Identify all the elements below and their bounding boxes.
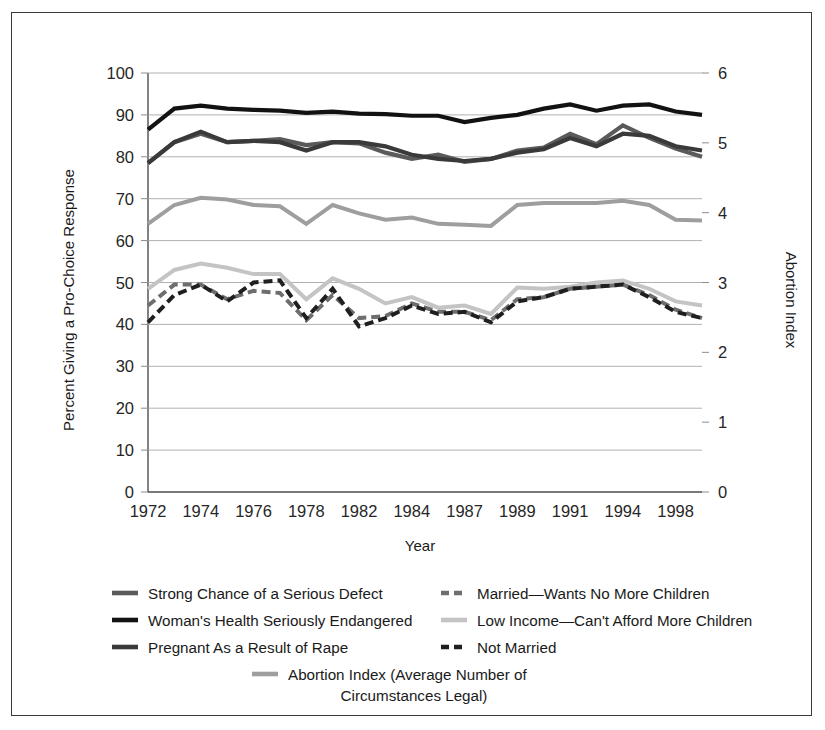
y-tick-label-left: 20 (116, 399, 134, 417)
series-line (148, 132, 702, 163)
legend-label: Woman's Health Seriously Endangered (148, 612, 412, 629)
legend-label: Abortion Index (Average Number of (288, 666, 527, 683)
legend: Strong Chance of a Serious DefectWoman's… (112, 585, 752, 705)
legend-item-abortion-index: Abortion Index (Average Number ofCircums… (252, 666, 527, 705)
y-tick-label-left: 80 (116, 148, 134, 166)
legend-label: Pregnant As a Result of Rape (148, 639, 348, 656)
y-tick-label-left: 100 (106, 64, 134, 82)
legend-item: Strong Chance of a Serious Defect (112, 585, 383, 602)
legend-item: Woman's Health Seriously Endangered (112, 612, 412, 629)
y-tick-label-left: 40 (116, 315, 134, 333)
x-axis-title: Year (405, 537, 435, 554)
legend-item: Married—Wants No More Children (441, 585, 709, 602)
y-tick-label-right: 2 (718, 343, 727, 361)
y-tick-label-left: 30 (116, 357, 134, 375)
y-tick-label-left: 0 (125, 483, 134, 501)
y-tick-label-left: 10 (116, 441, 134, 459)
x-tick-label: 1976 (235, 502, 272, 520)
y-axis-left: 0102030405060708090100 (106, 64, 148, 501)
y-tick-label-right: 4 (718, 204, 727, 222)
legend-label: Strong Chance of a Serious Defect (148, 585, 383, 602)
y-tick-label-right: 0 (718, 483, 727, 501)
x-tick-label: 1984 (393, 502, 430, 520)
x-tick-label: 1972 (130, 502, 167, 520)
y-tick-label-left: 70 (116, 190, 134, 208)
legend-item: Pregnant As a Result of Rape (112, 639, 348, 656)
y-tick-label-left: 90 (116, 106, 134, 124)
y-tick-label-right: 1 (718, 413, 727, 431)
x-tick-label: 1994 (604, 502, 641, 520)
x-tick-label: 1974 (182, 502, 219, 520)
y-tick-label-right: 5 (718, 134, 727, 152)
series-line (148, 198, 702, 226)
y-tick-label-left: 60 (116, 232, 134, 250)
abortion-attitudes-line-chart: 0102030405060708090100 0123456 197219741… (0, 0, 825, 730)
legend-label: Not Married (477, 639, 556, 656)
series-lines (148, 104, 702, 326)
y-axis-right: 0123456 (702, 64, 727, 501)
x-tick-label: 1991 (552, 502, 589, 520)
legend-label: Married—Wants No More Children (477, 585, 709, 602)
y-tick-label-right: 3 (718, 274, 727, 292)
x-tick-label: 1998 (657, 502, 694, 520)
y-axis-right-title: Abortion Index (783, 252, 800, 349)
legend-label: Low Income—Can't Afford More Children (477, 612, 752, 629)
legend-item: Low Income—Can't Afford More Children (441, 612, 752, 629)
x-axis: 1972197419761978198219841987198919911994… (130, 502, 694, 520)
x-tick-label: 1978 (288, 502, 325, 520)
y-tick-label-left: 50 (116, 274, 134, 292)
legend-label-line2: Circumstances Legal) (341, 687, 488, 704)
x-tick-label: 1987 (446, 502, 483, 520)
y-axis-left-title: Percent Giving a Pro-Choice Response (60, 169, 77, 431)
legend-item: Not Married (441, 639, 556, 656)
x-tick-label: 1989 (499, 502, 536, 520)
y-tick-label-right: 6 (718, 64, 727, 82)
x-tick-label: 1982 (341, 502, 378, 520)
